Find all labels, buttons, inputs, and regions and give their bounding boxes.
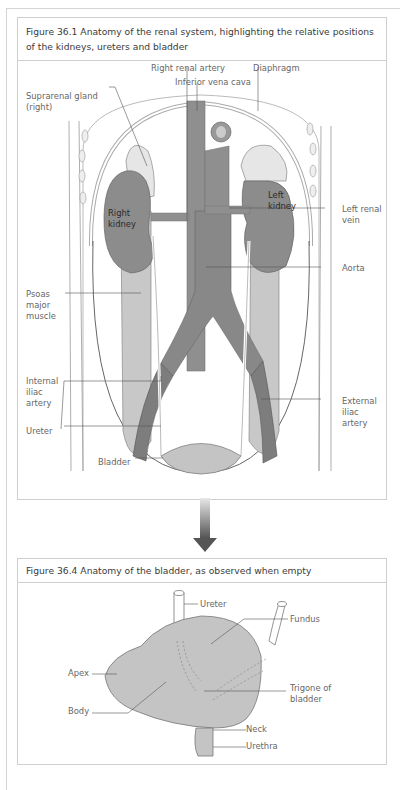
label-inferior-vena-cava: Inferior vena cava [175, 77, 251, 88]
right-renal-vessels [151, 213, 189, 221]
down-arrow-icon [190, 498, 220, 558]
label-trigone-of-bladder: Trigone of bladder [290, 683, 331, 705]
label-apex: Apex [68, 668, 89, 679]
label-left-renal-vein: Left renal vein [342, 204, 382, 226]
label-body: Body [68, 706, 89, 717]
label-left-kidney: Left kidney [268, 190, 296, 212]
bladder [161, 444, 241, 475]
label-right-renal-artery: Right renal artery [151, 63, 225, 74]
label-bladder: Bladder [98, 457, 130, 468]
figure-36-4-panel: Figure 36.4 Anatomy of the bladder, as o… [17, 558, 387, 765]
page-frame-left [6, 8, 7, 790]
label-diaphragm: Diaphragm [253, 63, 300, 74]
left-renal-vein [205, 206, 250, 214]
label-psoas-major-muscle: Psoas major muscle [26, 289, 56, 322]
figure-36-1-panel: Figure 36.1 Anatomy of the renal system,… [17, 17, 387, 500]
label-neck: Neck [246, 724, 267, 735]
bladder-neck [195, 728, 213, 756]
figure-36-1-title: Figure 36.1 Anatomy of the renal system,… [18, 18, 386, 61]
label-ureter: Ureter [26, 426, 52, 437]
figure-36-4-title: Figure 36.4 Anatomy of the bladder, as o… [18, 559, 386, 583]
label-internal-iliac-artery: Internal iliac artery [26, 376, 58, 409]
label-right-kidney: Right kidney [108, 208, 136, 230]
label-urethra: Urethra [246, 741, 278, 752]
label-fundus: Fundus [290, 614, 320, 625]
label-aorta: Aorta [342, 263, 365, 274]
aorta [205, 146, 229, 211]
bladder-body [105, 616, 261, 728]
ureter-right [153, 236, 161, 456]
page-frame-top [6, 8, 400, 9]
label-external-iliac-artery: External iliac artery [342, 396, 377, 429]
suprarenal-gland-left [241, 145, 287, 181]
renal-system-diagram [18, 58, 386, 498]
label-bladder-ureter: Ureter [200, 599, 226, 610]
label-suprarenal-gland: Suprarenal gland (right) [26, 91, 98, 113]
